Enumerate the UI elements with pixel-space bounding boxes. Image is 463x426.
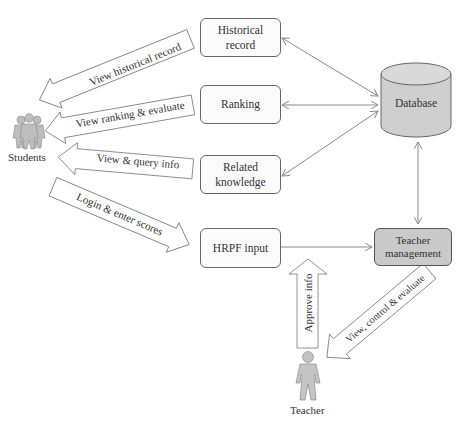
- related-knowledge-box: Related knowledge: [200, 155, 281, 194]
- historical-record-label-line1: Historical: [218, 23, 263, 38]
- teacher-management-label-line1: Teacher: [385, 234, 441, 247]
- students-label: Students: [8, 151, 46, 163]
- historical-record-label-line2: record: [218, 38, 263, 53]
- teacher-management-label-line2: management: [385, 247, 441, 260]
- diagram-canvas: [0, 0, 463, 426]
- related-knowledge-label-line2: knowledge: [215, 175, 265, 190]
- ranking-label: Ranking: [221, 97, 260, 112]
- hrpf-input-label: HRPF input: [213, 241, 268, 256]
- students-icon: [13, 114, 45, 149]
- hrpf-input-box: HRPF input: [200, 228, 281, 268]
- connector-historical-database: [282, 38, 378, 96]
- teacher-management-box: Teacher management: [374, 228, 452, 266]
- ranking-box: Ranking: [200, 85, 281, 124]
- related-knowledge-label-line1: Related: [215, 160, 265, 175]
- database-label: Database: [381, 97, 451, 109]
- teacher-label: Teacher: [290, 404, 325, 416]
- connector-related-database: [282, 111, 378, 176]
- historical-record-box: Historical record: [200, 18, 281, 57]
- teacher-icon: [296, 352, 320, 401]
- flow-label-approve-info: Approve info: [302, 263, 314, 343]
